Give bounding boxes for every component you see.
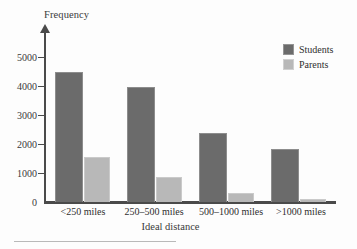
legend-label-students: Students [299,44,333,55]
x-axis-title-wrapper: Ideal distance [0,221,357,232]
plot-area [45,56,335,202]
bar-parents-500-1000 [228,193,254,202]
x-tick-label-gt1000: >1000 miles [259,206,343,217]
bar-parents-250-500 [156,177,182,202]
students-swatch-icon [283,44,294,55]
bar-students-gt1000 [271,149,299,202]
y-tick-5000 [38,57,45,58]
y-tick-label-1000: 1000 [3,168,37,179]
bar-parents-gt1000 [300,199,326,202]
y-tick-label-5000: 5000 [3,52,37,63]
x-tick-label-lt250: <250 miles [46,206,120,217]
bar-students-lt250 [55,72,83,202]
legend-item-students: Students [283,43,333,56]
y-tick-4000 [38,86,45,87]
y-tick-3000 [38,115,45,116]
y-tick-2000 [38,144,45,145]
x-axis-title: Ideal distance [141,221,199,232]
bar-students-250-500 [127,87,155,202]
footer-divider [14,241,176,242]
bar-students-500-1000 [199,133,227,202]
legend-label-parents: Parents [299,59,328,70]
legend-item-parents: Parents [283,58,333,71]
bar-chart-figure: Frequency 5000 4000 3000 2000 1000 0 <25… [0,0,357,249]
parents-swatch-icon [283,59,294,70]
y-tick-label-0: 0 [3,197,37,208]
y-tick-1000 [38,173,45,174]
chart-legend: Students Parents [283,43,333,73]
y-tick-label-2000: 2000 [3,139,37,150]
bar-parents-lt250 [84,157,110,202]
y-axis-title: Frequency [44,9,89,20]
y-tick-label-3000: 3000 [3,110,37,121]
y-tick-label-4000: 4000 [3,81,37,92]
